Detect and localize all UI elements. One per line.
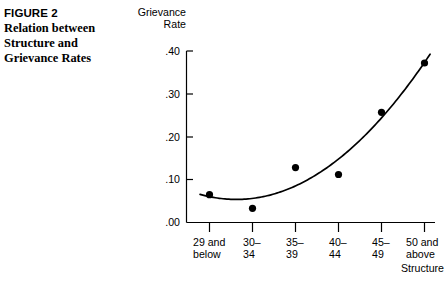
data-point: [335, 171, 342, 178]
x-tick-label-1: 30– 34: [243, 236, 261, 260]
x-tick-label-5: 50 and above: [406, 236, 438, 260]
x-tick-label-2: 35– 39: [286, 236, 304, 260]
x-tick-label-1-line-1: 30–: [243, 236, 261, 248]
x-tick-label-3-line-2: 44: [329, 248, 347, 260]
x-tick-label-4-line-2: 49: [372, 248, 390, 260]
chart-plot-area: Grievance Rate .40 .30 .20 .10 .00: [0, 0, 448, 287]
figure-container: FIGURE 2 Relation between Structure and …: [0, 0, 448, 287]
x-tick-label-3: 40– 44: [329, 236, 347, 260]
x-tick-label-1-line-2: 34: [243, 248, 261, 260]
x-tick-label-4-line-1: 45–: [372, 236, 390, 248]
trend-curve: [200, 54, 430, 199]
data-points: [206, 59, 428, 212]
x-tick-label-5-line-1: 50 and: [406, 236, 438, 248]
data-point: [249, 205, 256, 212]
data-point: [206, 191, 213, 198]
x-tick-label-3-line-1: 40–: [329, 236, 347, 248]
x-tick-label-2-line-1: 35–: [286, 236, 304, 248]
x-tick-label-5-line-2: above: [406, 248, 438, 260]
x-tick-label-0-line-2: below: [193, 248, 225, 260]
x-axis-title: Structure: [338, 262, 444, 274]
x-tick-label-0-line-1: 29 and: [193, 236, 225, 248]
x-tick-label-0: 29 and below: [193, 236, 225, 260]
x-tick-label-2-line-2: 39: [286, 248, 304, 260]
data-point: [421, 59, 428, 66]
data-point: [378, 109, 385, 116]
x-tick-label-4: 45– 49: [372, 236, 390, 260]
data-point: [292, 164, 299, 171]
